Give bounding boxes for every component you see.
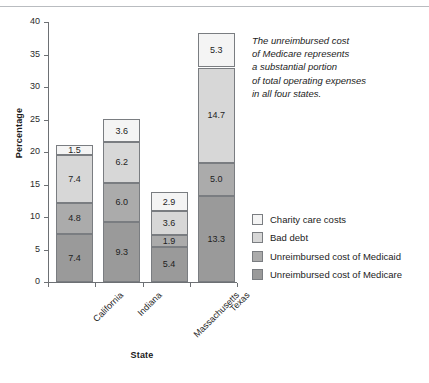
bar-segment[interactable]: 7.4: [56, 234, 93, 282]
y-axis-line: [48, 22, 49, 283]
y-tick-label: 10: [18, 211, 40, 221]
legend-label: Charity care costs: [270, 214, 346, 225]
x-tick-mark: [48, 283, 49, 287]
x-tick-mark: [143, 283, 144, 287]
bar-stack[interactable]: 9.36.06.23.6: [103, 22, 140, 282]
y-tick-mark: [44, 55, 48, 56]
bar-stack[interactable]: 7.44.87.41.5: [56, 22, 93, 282]
x-tick-mark: [190, 283, 191, 287]
bar-segment[interactable]: 5.4: [151, 247, 188, 282]
bar-stack[interactable]: 13.35.014.75.3: [198, 22, 235, 282]
bar-segment[interactable]: 3.6: [151, 211, 188, 234]
annotation-line: The unreimbursed cost: [252, 34, 424, 47]
y-tick-label: 15: [18, 179, 40, 189]
bar-segment[interactable]: 6.2: [103, 142, 140, 182]
y-tick-label: 0: [18, 276, 40, 286]
y-tick-label: 5: [18, 244, 40, 254]
bar-segment[interactable]: 5.3: [198, 33, 235, 67]
annotation-line: of Medicare represents: [252, 47, 424, 60]
bar-segment[interactable]: 9.3: [103, 222, 140, 282]
y-axis-title: Percentage: [14, 93, 24, 173]
y-tick-label: 30: [18, 81, 40, 91]
bar-segment[interactable]: 2.9: [151, 192, 188, 211]
chart-annotation: The unreimbursed costof Medicare represe…: [252, 34, 424, 100]
legend-label: Bad debt: [270, 232, 308, 243]
y-tick-label: 35: [18, 49, 40, 59]
annotation-line: in all four states.: [252, 87, 424, 100]
legend-swatch: [252, 214, 263, 225]
legend-item[interactable]: Bad debt: [252, 229, 402, 248]
y-tick-label: 40: [18, 16, 40, 26]
legend-item[interactable]: Unreimbursed cost of Medicaid: [252, 247, 402, 266]
bar-segment[interactable]: 5.0: [198, 163, 235, 196]
y-tick-mark: [44, 22, 48, 23]
x-axis-title: State: [47, 350, 237, 360]
x-category-label: Massachusetts: [192, 290, 242, 340]
legend-label: Unreimbursed cost of Medicaid: [270, 251, 401, 262]
y-tick-mark: [44, 185, 48, 186]
x-tick-mark: [237, 283, 238, 287]
legend-label: Unreimbursed cost of Medicare: [270, 269, 402, 280]
y-tick-mark: [44, 250, 48, 251]
bar-segment[interactable]: 1.9: [151, 235, 188, 247]
y-tick-mark: [44, 120, 48, 121]
legend-item[interactable]: Charity care costs: [252, 210, 402, 229]
x-category-label: California: [91, 290, 125, 324]
annotation-line: of total operating expenses: [252, 74, 424, 87]
bar-stack[interactable]: 5.41.93.62.9: [151, 22, 188, 282]
legend-swatch: [252, 251, 263, 262]
y-tick-mark: [44, 87, 48, 88]
y-tick-label: 25: [18, 114, 40, 124]
bar-segment[interactable]: 13.3: [198, 196, 235, 282]
bar-segment[interactable]: 3.6: [103, 119, 140, 142]
bar-segment[interactable]: 6.0: [103, 183, 140, 222]
y-tick-label: 20: [18, 146, 40, 156]
x-tick-mark: [95, 283, 96, 287]
annotation-line: a substantial portion: [252, 60, 424, 73]
legend-swatch: [252, 269, 263, 280]
bar-segment[interactable]: 7.4: [56, 155, 93, 203]
y-tick-mark: [44, 217, 48, 218]
bar-segment[interactable]: 4.8: [56, 203, 93, 234]
y-tick-mark: [44, 152, 48, 153]
x-category-label: Indiana: [135, 290, 163, 318]
bar-segment[interactable]: 14.7: [198, 68, 235, 164]
chart-legend: Charity care costsBad debtUnreimbursed c…: [252, 210, 402, 284]
legend-swatch: [252, 232, 263, 243]
stacked-bar-chart: Percentage State 0510152025303540 7.44.8…: [0, 0, 429, 383]
bar-segment[interactable]: 1.5: [56, 145, 93, 155]
legend-item[interactable]: Unreimbursed cost of Medicare: [252, 266, 402, 285]
